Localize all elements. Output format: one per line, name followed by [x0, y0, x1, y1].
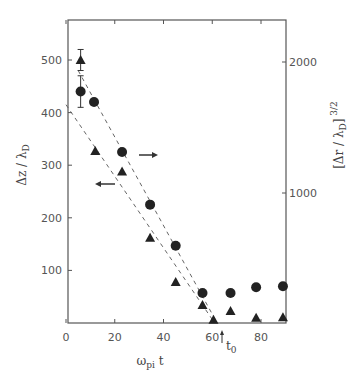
chart: 02040608010020030040050010002000t0ωpi tΔ…: [0, 0, 361, 383]
triangle-marker: [198, 300, 208, 309]
x-tick-label: 60: [205, 331, 219, 344]
y2-tick-label: 1000: [289, 187, 317, 200]
y2-axis-label: [Δr / λD] 3/2: [329, 101, 348, 169]
y-tick-label: 300: [41, 159, 62, 172]
t0-label: t0: [226, 339, 237, 355]
circle-marker: [89, 97, 99, 107]
y-tick-label: 200: [41, 212, 62, 225]
y-axis-label: Δz / λD: [15, 144, 31, 185]
x-axis-label: ωpi t: [136, 354, 163, 370]
left-arrow-head: [95, 181, 101, 187]
triangle-marker: [90, 146, 100, 155]
circle-marker: [251, 282, 261, 292]
triangle-marker: [171, 277, 181, 286]
y2-tick-label: 2000: [289, 56, 317, 69]
x-tick-label: 80: [254, 331, 268, 344]
circle-marker: [76, 87, 86, 97]
y-tick-label: 100: [41, 264, 62, 277]
triangle-marker: [76, 55, 86, 64]
triangle-marker: [208, 315, 218, 324]
right-arrow-head: [152, 152, 158, 158]
x-tick-label: 40: [157, 331, 171, 344]
circle-marker: [226, 288, 236, 298]
fit-line: [66, 105, 215, 323]
y-tick-label: 500: [41, 54, 62, 67]
plot-frame: [68, 20, 286, 323]
x-tick-label: 0: [63, 331, 70, 344]
triangle-marker: [117, 167, 127, 176]
triangle-marker: [226, 306, 236, 315]
y-tick-label: 400: [41, 107, 62, 120]
circle-marker: [171, 241, 181, 251]
circle-marker: [117, 147, 127, 157]
t0-arrow-head: [220, 330, 224, 335]
triangle-marker: [145, 233, 155, 242]
circle-marker: [145, 200, 155, 210]
x-tick-label: 20: [108, 331, 122, 344]
circle-marker: [278, 281, 288, 291]
triangle-marker: [251, 313, 261, 322]
fit-line: [78, 71, 217, 323]
circle-marker: [198, 288, 208, 298]
